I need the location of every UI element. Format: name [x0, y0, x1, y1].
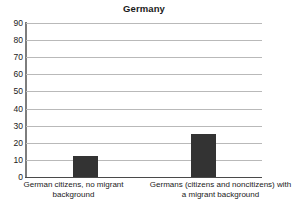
gridline [26, 74, 262, 75]
bar [191, 134, 216, 177]
y-tick-label: 90 [1, 19, 23, 28]
plot-area [26, 23, 262, 177]
y-tick-label: 10 [1, 156, 23, 165]
chart-title: Germany [26, 3, 262, 15]
bar-chart: Germany 0102030405060708090 German citiz… [0, 0, 294, 210]
gridline [26, 91, 262, 92]
bar [73, 156, 98, 177]
gridline [26, 40, 262, 41]
gridline [26, 160, 262, 161]
gridline [26, 143, 262, 144]
gridline [26, 126, 262, 127]
y-tick-label: 80 [1, 36, 23, 45]
gridline [26, 57, 262, 58]
gridline [26, 23, 262, 24]
y-tick-label: 70 [1, 53, 23, 62]
y-tick-label: 20 [1, 139, 23, 148]
y-tick-label: 40 [1, 105, 23, 114]
gridline [26, 109, 262, 110]
y-axis-tick-labels: 0102030405060708090 [0, 0, 23, 210]
y-tick-label: 60 [1, 70, 23, 79]
x-axis-category-label: German citizens, no migrant background [2, 180, 145, 200]
y-tick-label: 30 [1, 122, 23, 131]
x-axis-category-label: Germans (citizens and noncitizens) with … [148, 180, 293, 200]
y-tick-label: 50 [1, 87, 23, 96]
